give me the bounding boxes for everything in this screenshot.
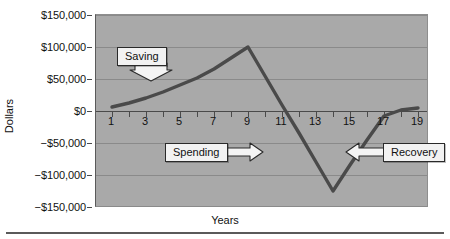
y-tick-label-neg150000: −$150,000 (35, 201, 86, 213)
y-tick-label-neg100000: −$100,000 (35, 169, 86, 181)
callout-spending[interactable]: Spending (165, 143, 228, 162)
callout-recovery[interactable]: Recovery (383, 143, 445, 162)
y-tickmark-50000 (87, 79, 92, 80)
x-tick-label-17: 17 (377, 115, 389, 127)
chart-figure: $150,000 $100,000 $50,000 $0 −$50,000 −$… (0, 0, 450, 239)
x-tick-label-11: 11 (275, 115, 286, 127)
x-tick-label-19: 19 (411, 115, 423, 127)
y-tickmark-neg100000 (87, 175, 92, 176)
x-tick-label-15: 15 (343, 115, 355, 127)
arrow-left-icon (345, 142, 387, 162)
arrow-right-icon (222, 142, 264, 162)
footer-divider (6, 232, 444, 234)
y-tickmark-0 (87, 111, 92, 112)
y-tick-label-100000: $100,000 (41, 41, 86, 53)
x-tick-label-13: 13 (309, 115, 321, 127)
callout-saving[interactable]: Saving (117, 47, 167, 66)
y-tickmark-neg50000 (87, 143, 92, 144)
y-tick-label-0: $0 (74, 105, 86, 117)
x-tick-label-1: 1 (108, 115, 114, 127)
y-tick-label-50000: $50,000 (47, 73, 86, 85)
x-tick-label-7: 7 (210, 115, 216, 127)
x-axis-title: Years (0, 214, 450, 226)
y-axis-title: Dollars (3, 81, 15, 151)
y-tickmark-150000 (87, 15, 92, 16)
x-tick-label-9: 9 (244, 115, 250, 127)
y-tickmark-100000 (87, 47, 92, 48)
x-tick-label-5: 5 (176, 115, 182, 127)
data-line-dollars (96, 15, 429, 208)
y-tick-label-150000: $150,000 (41, 9, 86, 21)
y-tickmark-neg150000 (87, 207, 92, 208)
y-tick-label-neg50000: −$50,000 (41, 137, 86, 149)
x-tick-label-3: 3 (142, 115, 148, 127)
plot-area (95, 14, 428, 207)
